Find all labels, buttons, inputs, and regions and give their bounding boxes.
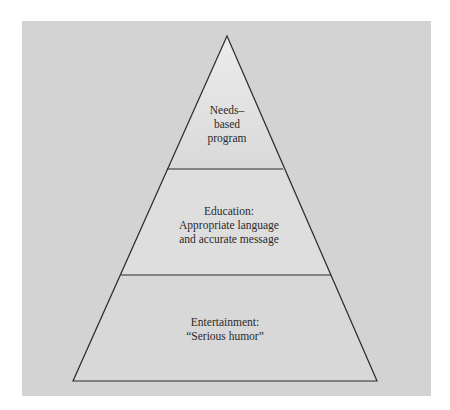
tier-text-line: Appropriate language [179,218,279,232]
tier-text-line: Entertainment: [186,315,264,329]
tier-text-line: “Serious humor” [186,329,264,343]
tier-label-education: Education: Appropriate language and accu… [179,204,279,246]
tier-text-line: program [208,131,247,145]
tier-label-entertainment: Entertainment: “Serious humor” [186,315,264,343]
tier-label-needs-based-program: Needs– based program [208,103,247,145]
tier-text-line: and accurate message [179,232,279,246]
tier-text-line: based [208,117,247,131]
tier-text-line: Education: [179,204,279,218]
tier-text-line: Needs– [208,103,247,117]
